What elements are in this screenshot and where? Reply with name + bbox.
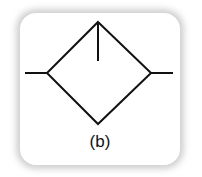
diagram-caption: (b)	[20, 132, 180, 152]
